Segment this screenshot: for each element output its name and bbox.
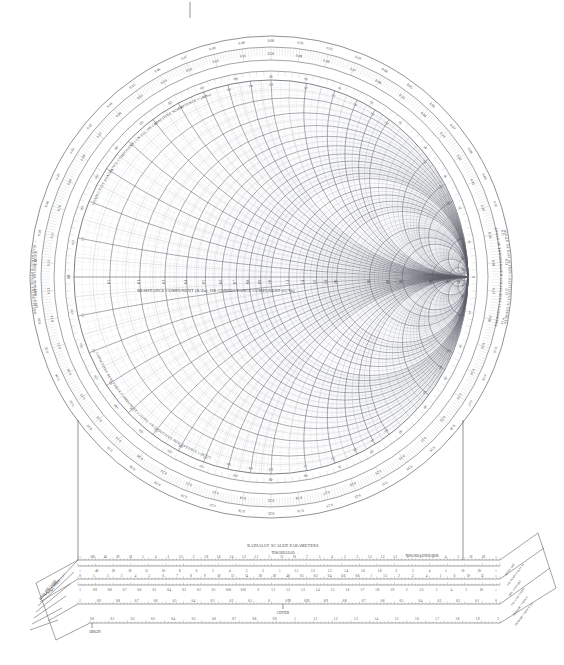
scale-tick: 0.7 [362,599,366,603]
wavelength-load-label: 0.34 [469,368,475,376]
wavelength-load-label: 0.04 [160,79,168,86]
angle-degree-label: -20 [458,343,463,349]
angle-degree-label: -10 [467,310,472,315]
scale-tick: 0.6 [212,617,216,621]
scale-tick: 1.9 [390,588,394,592]
axis-tick-label: 50 [457,280,461,284]
scale-tick: 0.2 [314,574,318,578]
scale-tick: 3 [436,588,438,592]
scale-tick: 10 [293,555,297,559]
wavelength-load-label: 0.43 [439,131,446,139]
angle-degree-label: -100 [232,473,239,478]
wavelength-generator-label: 0.09 [481,173,487,181]
reactance-tick-label: 1.6 [353,102,359,107]
scale-tick: ∞ [495,574,497,578]
scale-tick: 30 [112,569,116,573]
wavelength-load-label: 0.16 [66,368,72,376]
scale-tick: 4 [135,574,137,578]
scale-tick: 5 [149,574,151,578]
axis-tick-label: 1.4 [301,280,305,284]
angle-degree-label: 20 [458,206,463,211]
wavelength-generator-label: 0.06 [429,102,436,109]
scale-tick: ∞ [495,588,497,592]
scale-tick: 0.5 [173,599,177,603]
scale-tick: 20 [259,574,263,578]
scale-tick: 0.1 [475,599,479,603]
wavelength-load-label: 0.09 [66,178,72,186]
reactance-tick-label: 1.8 [369,437,375,443]
axis-tick-label: 3.0 [367,280,371,284]
angle-degree-label: -160 [78,342,84,349]
wavelength-load-label: 0.22 [185,481,193,487]
scale-tick: 20 [116,555,120,559]
wavelength-generator-label: 0.31 [106,445,113,452]
wavelength-load-label: 0.14 [50,315,55,322]
wavelength-generator-label: 0.21 [381,480,389,487]
scale-tick: 1.6 [415,617,419,621]
angle-degree-label: -170 [70,308,75,315]
wavelength-load-label: 0.29 [374,469,382,476]
scale-tick: 3 [121,574,123,578]
reactance-tick-label: 0.1 [80,236,85,241]
scale-tick: 0.8 [355,574,359,578]
wavelength-load-label: 0.26 [295,496,302,501]
scale-tick: 1.7 [360,588,364,592]
wavelength-load-label: 0.21 [160,469,168,476]
scale-tick: 20 [128,569,132,573]
wavelength-load-label: 0.03 [185,67,193,73]
angle-degree-label: 150 [94,173,100,179]
wavelength-load-label: 0.12 [47,260,51,267]
angle-degree-label: 110 [199,85,205,90]
scale-tick: 10 [162,569,166,573]
scale-tick: 0.1 [212,588,216,592]
wavelength-load-label: 0.47 [349,67,357,73]
scale-tick: 0.1 [110,617,114,621]
angle-degree-label: 40 [422,145,427,150]
scale-tick: 10 [461,569,465,573]
wavelength-generator-label: 0.30 [129,464,137,471]
scale-tick: 0.5 [400,599,404,603]
scale-tick: 100 [90,555,95,559]
angle-degree-label: -130 [137,428,144,435]
scale-tick: 1.1 [271,588,275,592]
scale-tick: 0.2 [229,599,233,603]
angle-degree-label: -60 [369,449,375,455]
smith-chart-page: 0.10.20.30.40.50.60.70.80.91.01.21.41.61… [0,0,564,665]
scale-tick: 0.7 [232,617,236,621]
scale-tick: 0.6 [154,599,158,603]
reactance-tick-label: 1.6 [352,447,358,452]
angle-degree-label: 100 [233,76,239,81]
scale-tick: 1.5 [383,574,387,578]
scale-tick: 1 [79,588,81,592]
wavelength-generator-label: 0.04 [381,67,389,74]
wavelength-generator-label: 0.25 [268,511,274,515]
wavelength-load-label: 0.36 [487,315,492,322]
scale-tick: 5 [212,569,214,573]
wavelength-load-label: 0.39 [487,232,492,239]
wavelength-load-label: 0.40 [480,205,486,212]
center-marker: CENTER [277,611,290,615]
scale-tick: 0.2 [197,588,201,592]
reactance-tick-label: 1.0 [269,467,273,471]
scale-tick: 1.5 [331,588,335,592]
scale-tick: 12 [231,574,235,578]
scale-tick: 5 [142,555,144,559]
scale-tick: 10 [480,588,484,592]
scale-tick: 1.6 [346,588,350,592]
scale-tick: 0 [258,588,260,592]
scale-tick: 15 [280,555,284,559]
axis-tick-label: 1.0 [268,280,272,284]
reactance-tick-label: 1.4 [331,93,336,98]
wavelength-generator-label: 0.36 [37,318,42,325]
scale-tick: 7 [176,574,178,578]
axis-tick-label: 0.2 [137,280,141,284]
scale-tick: 6 [454,574,456,578]
scale-tick: 0.9 [93,588,97,592]
scale-tick: 1.8 [204,555,208,559]
reactance-tick-label: 0.8 [227,87,232,92]
scale-tick: 4 [155,555,157,559]
scale-tick: 0.3 [210,599,214,603]
scale-tick: 0 [79,574,81,578]
scale-tick: 15 [145,569,149,573]
scale-tick: 0.0 [90,617,94,621]
